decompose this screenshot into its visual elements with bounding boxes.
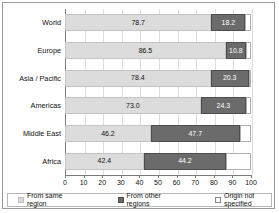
- bar-segment-from-same-region[interactable]: 73.0: [65, 97, 201, 114]
- bar-row[interactable]: 78.718.2: [65, 14, 251, 31]
- gridline-100: [252, 9, 253, 175]
- bar-segment-origin-not-specified[interactable]: [246, 97, 251, 114]
- bar-row[interactable]: 86.510.8: [65, 42, 251, 59]
- gridline-20: [103, 9, 104, 175]
- bar-segment-from-same-region[interactable]: 42.4: [65, 153, 144, 170]
- plot-area: [65, 9, 251, 175]
- gridline-70: [196, 9, 197, 175]
- category-label-africa: Africa: [5, 157, 61, 166]
- gridline-40: [140, 9, 141, 175]
- legend-label-other-regions: From other regions: [127, 192, 173, 208]
- legend-item-from-same-region: From same region: [18, 192, 72, 208]
- x-tick-90: [232, 175, 233, 178]
- bar-segment-origin-not-specified[interactable]: [245, 14, 251, 31]
- bar-segment-from-other-regions[interactable]: 10.8: [226, 42, 246, 59]
- bar-value-label: 73.0: [66, 102, 200, 110]
- legend-item-origin-not-specified: Origin not specified: [215, 192, 271, 208]
- x-tick-50: [158, 175, 159, 178]
- legend-label-origin-not-specified: Origin not specified: [224, 192, 271, 208]
- bar-value-label: 86.5: [66, 47, 225, 55]
- bar-segment-from-same-region[interactable]: 78.7: [65, 14, 211, 31]
- bar-value-label: 24.3: [202, 102, 245, 110]
- gridline-30: [122, 9, 123, 175]
- legend-swatch-icon-same-region: [18, 197, 24, 203]
- bar-row[interactable]: 78.420.3: [65, 70, 251, 87]
- stacked-bar-chart: WorldEuropeAsia / PacificAmericasMiddle …: [3, 3, 276, 210]
- gridline-10: [85, 9, 86, 175]
- bar-value-label: 44.2: [145, 157, 225, 165]
- gridline-50: [159, 9, 160, 175]
- category-label-middle-east: Middle East: [5, 129, 61, 138]
- legend-label-same-region: From same region: [27, 192, 72, 208]
- chart-legend: From same region From other regions Orig…: [7, 193, 272, 207]
- bar-value-label: 78.7: [66, 19, 210, 27]
- bar-row[interactable]: 73.024.3: [65, 97, 251, 114]
- gridline-60: [178, 9, 179, 175]
- category-label-europe: Europe: [5, 46, 61, 55]
- bar-row[interactable]: 46.247.7: [65, 125, 251, 142]
- x-tick-80: [214, 175, 215, 178]
- bar-segment-origin-not-specified[interactable]: [240, 125, 251, 142]
- bar-value-label: 78.4: [66, 74, 210, 82]
- x-tick-10: [84, 175, 85, 178]
- category-label-asia-pacific: Asia / Pacific: [5, 74, 61, 83]
- bar-segment-from-other-regions[interactable]: 20.3: [211, 70, 249, 87]
- category-label-world: World: [5, 18, 61, 27]
- bar-segment-from-other-regions[interactable]: 44.2: [144, 153, 226, 170]
- bar-value-label: 10.8: [227, 47, 245, 55]
- bar-value-label: 46.2: [66, 130, 150, 138]
- x-tick-100: [251, 175, 252, 178]
- bar-segment-origin-not-specified[interactable]: [249, 70, 251, 87]
- legend-swatch-icon-other-regions: [118, 197, 124, 203]
- bar-segment-from-other-regions[interactable]: 18.2: [211, 14, 245, 31]
- x-tick-60: [177, 175, 178, 178]
- bar-value-label: 47.7: [152, 130, 239, 138]
- bar-segment-from-same-region[interactable]: 46.2: [65, 125, 151, 142]
- gridline-80: [215, 9, 216, 175]
- bar-value-label: 18.2: [212, 19, 244, 27]
- x-tick-label-100: 100: [239, 179, 263, 187]
- x-tick-40: [139, 175, 140, 178]
- category-label-americas: Americas: [5, 101, 61, 110]
- gridline-90: [233, 9, 234, 175]
- bar-segment-from-other-regions[interactable]: 24.3: [201, 97, 246, 114]
- bar-row[interactable]: 42.444.2: [65, 153, 251, 170]
- bar-segment-from-other-regions[interactable]: 47.7: [151, 125, 240, 142]
- bar-segment-origin-not-specified[interactable]: [246, 42, 251, 59]
- chart-frame: WorldEuropeAsia / PacificAmericasMiddle …: [2, 2, 275, 209]
- x-tick-20: [102, 175, 103, 178]
- x-tick-30: [121, 175, 122, 178]
- legend-swatch-icon-origin-not-specified: [215, 197, 221, 203]
- bar-value-label: 42.4: [66, 157, 143, 165]
- bar-segment-from-same-region[interactable]: 86.5: [65, 42, 226, 59]
- bar-segment-origin-not-specified[interactable]: [226, 153, 251, 170]
- x-tick-0: [65, 175, 66, 178]
- legend-item-from-other-regions: From other regions: [118, 192, 173, 208]
- bar-value-label: 20.3: [212, 74, 248, 82]
- bar-segment-from-same-region[interactable]: 78.4: [65, 70, 211, 87]
- x-tick-70: [195, 175, 196, 178]
